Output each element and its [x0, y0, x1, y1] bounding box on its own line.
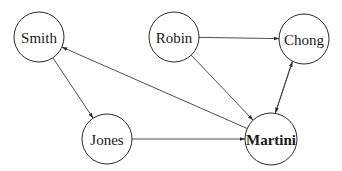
- node-smith[interactable]: Smith: [14, 12, 64, 62]
- node-label: Chong: [284, 32, 325, 48]
- node-label: Smith: [21, 30, 57, 46]
- edge-robin-to-martini: [191, 55, 253, 120]
- edge-robin-to-chong: [199, 37, 279, 38]
- node-robin[interactable]: Robin: [149, 12, 199, 62]
- edge-chong-to-martini: [275, 61, 292, 113]
- node-jones[interactable]: Jones: [82, 114, 132, 164]
- nodes-layer: Smith Robin Chong Jones Martini: [14, 12, 329, 165]
- node-label: Martini: [246, 132, 296, 148]
- edge-smith-to-jones: [53, 58, 93, 118]
- edge-martini-to-smith: [62, 47, 247, 128]
- node-label: Robin: [156, 30, 193, 46]
- node-martini[interactable]: Martini: [245, 113, 297, 165]
- network-graph: Smith Robin Chong Jones Martini: [0, 0, 342, 171]
- node-chong[interactable]: Chong: [279, 14, 329, 64]
- node-label: Jones: [90, 132, 123, 148]
